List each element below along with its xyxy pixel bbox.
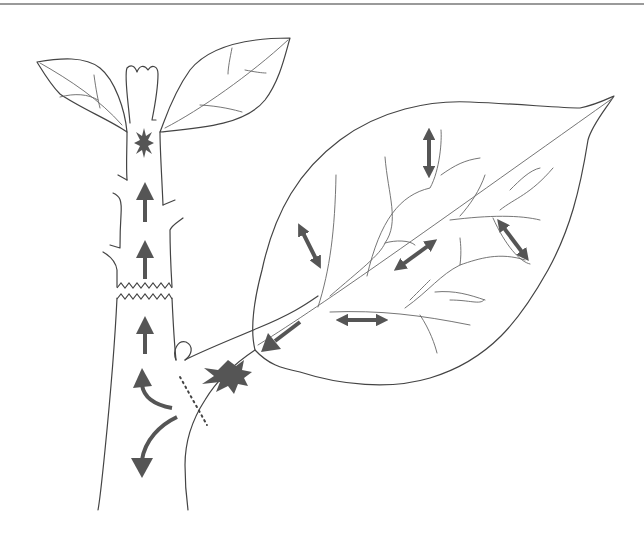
stem-burst-icon (134, 128, 154, 158)
up-arrow-icon (136, 316, 154, 354)
main-stem (98, 132, 183, 510)
stem-arrows (136, 182, 154, 354)
curved-arrows (131, 368, 177, 478)
upper-right-leaf (160, 38, 290, 132)
petiole-burst-icon (202, 360, 252, 394)
axillary-bud (175, 342, 191, 360)
girdle-zigzag (117, 283, 172, 299)
diagram-canvas (0, 0, 644, 535)
apical-bud (126, 66, 158, 123)
up-arrow-icon (136, 182, 154, 222)
curved-up-arrow-icon (133, 368, 172, 408)
upper-left-leaf (37, 59, 127, 132)
curved-down-arrow-icon (131, 417, 177, 478)
abscission-line (180, 377, 207, 425)
up-arrow-icon (136, 240, 154, 279)
plant-diagram (0, 0, 644, 535)
